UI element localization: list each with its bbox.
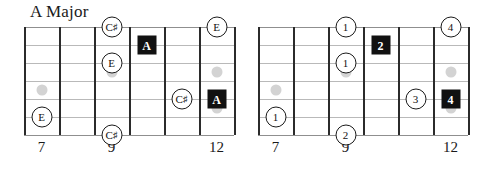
note-marker: E [206,17,227,38]
fret-numbers: 7912 [258,139,468,167]
string-line [24,135,234,136]
fret-numbers: 7912 [24,139,234,167]
fret-number-label: 7 [38,139,46,156]
fretboard-diagram-notes: C♯EAEAC♯EC♯7912 [24,27,234,135]
note-marker: E [31,107,52,128]
sharp-symbol: ♯ [113,131,118,140]
fretboard-diagram-degrees: 142143127912 [258,27,468,135]
note-marker: 3 [405,89,426,110]
note-marker: C♯ [101,125,122,146]
sharp-symbol: ♯ [113,23,118,32]
fret-number-label: 7 [272,139,280,156]
fret-number-label: 12 [443,139,458,156]
note-marker: C♯ [101,17,122,38]
fret-line [468,27,470,135]
note-marker: 1 [335,17,356,38]
note-marker: C♯ [171,89,192,110]
note-marker: 1 [265,107,286,128]
root-note-marker: 4 [441,90,460,109]
string-line [258,135,468,136]
fret-line [234,27,236,135]
note-marker: 1 [335,53,356,74]
sharp-symbol: ♯ [183,95,188,104]
fret-number-label: 12 [209,139,224,156]
root-note-marker: 2 [371,36,390,55]
note-marker: 4 [440,17,461,38]
root-note-marker: A [207,90,226,109]
note-marker: 2 [335,125,356,146]
root-note-marker: A [137,36,156,55]
note-markers: 14214312 [258,27,468,135]
note-marker: E [101,53,122,74]
note-markers: C♯EAEAC♯EC♯ [24,27,234,135]
page-title: A Major [30,2,89,22]
